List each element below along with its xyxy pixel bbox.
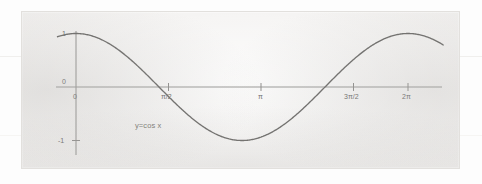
y-tick-label-0: 0 (62, 78, 66, 85)
y-tick-label-1: 1 (62, 30, 66, 37)
cosine-plot (22, 12, 459, 168)
x-tick-label-3pi-over-2: 3π/2 (344, 93, 359, 100)
x-tick-label-0: 0 (73, 93, 77, 100)
curve-equation-label: y=cos x (135, 122, 161, 130)
figure-panel: 1 0 -1 0 π/2 π 3π/2 2π y=cos x (21, 11, 460, 169)
x-tick-label-pi: π (258, 93, 263, 100)
x-tick-label-2pi: 2π (402, 93, 411, 100)
x-tick-label-pi-over-2: π/2 (161, 93, 172, 100)
scanned-page: 1 0 -1 0 π/2 π 3π/2 2π y=cos x (0, 0, 482, 184)
y-tick-label-minus-1: -1 (58, 137, 64, 144)
plot-svg (22, 12, 459, 168)
